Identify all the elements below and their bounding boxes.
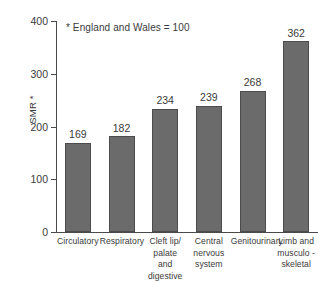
bar[interactable] (240, 91, 266, 232)
y-axis-tick-label: 0 (8, 227, 48, 238)
bar[interactable] (65, 143, 91, 232)
x-axis-category-label: Respiratory (100, 236, 144, 248)
x-axis-category-line: musculo - (274, 248, 318, 260)
bar-value-label: 169 (53, 129, 103, 140)
y-axis-tick-label: 300 (8, 69, 48, 80)
bar-group[interactable]: 169 (65, 21, 91, 232)
bar-group[interactable]: 362 (283, 21, 309, 232)
bar[interactable] (196, 106, 222, 232)
y-axis-tick-label: 400 (8, 16, 48, 27)
bar-group[interactable]: 268 (240, 21, 266, 232)
y-axis-tick-label: 200 (8, 121, 48, 132)
bar[interactable] (109, 136, 135, 232)
x-axis-category-label: Circulatory (56, 236, 100, 248)
x-axis-category-line: palate (143, 248, 187, 260)
bar-value-label: 234 (140, 95, 190, 106)
bar-value-label: 239 (184, 92, 234, 103)
y-axis-tick-label: 100 (8, 174, 48, 185)
bar-group[interactable]: 239 (196, 21, 222, 232)
x-axis-category-line: Circulatory (56, 236, 100, 248)
bar-value-label: 182 (97, 123, 147, 134)
x-axis-category-line: Central (187, 236, 231, 248)
bar-group[interactable]: 182 (109, 21, 135, 232)
x-axis-category-label: Genitourinary (231, 236, 275, 248)
bar-value-label: 268 (228, 77, 278, 88)
x-axis-category-line: Limb and (274, 236, 318, 248)
x-axis-line (56, 232, 318, 233)
x-axis-category-line: Genitourinary (231, 236, 275, 248)
x-axis-category-line: Cleft lip/ (143, 236, 187, 248)
x-axis-category-line: skeletal (274, 259, 318, 271)
y-axis-tick (51, 232, 56, 233)
x-axis-labels: CirculatoryRespiratoryCleft lip/palatean… (56, 236, 318, 283)
x-axis-category-line: Respiratory (100, 236, 144, 248)
bar[interactable] (283, 41, 309, 232)
x-axis-category-label: Centralnervoussystem (187, 236, 231, 271)
bar-chart: SMR * 0100200300400 * England and Wales … (0, 0, 324, 283)
x-axis-category-label: Limb andmusculo -skeletal (274, 236, 318, 271)
bar-group[interactable]: 234 (152, 21, 178, 232)
bar-value-label: 362 (271, 28, 321, 39)
x-axis-category-label: Cleft lip/palateand digestive (143, 236, 187, 282)
x-axis-category-line: nervous (187, 248, 231, 260)
bars-container: 169182234239268362 (56, 21, 318, 232)
bar[interactable] (152, 109, 178, 232)
x-axis-category-line: and digestive (143, 259, 187, 282)
x-axis-category-line: system (187, 259, 231, 271)
